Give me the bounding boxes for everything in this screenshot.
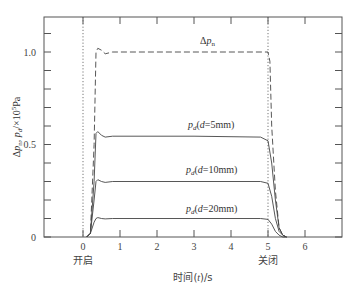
open-label: 开启: [73, 254, 93, 266]
y-tick-label: 1.0: [24, 47, 37, 58]
annotation-pd-5mm: pd(d=5mm): [187, 119, 234, 132]
close-label: 关闭: [258, 254, 278, 266]
y-axis-label: Δpn, pd/×105Pa: [10, 96, 24, 157]
annotation-pd-10mm: pd(d=10mm): [185, 164, 237, 177]
annotation-pd-20mm: pd(d=20mm): [185, 203, 237, 216]
event-markers: [83, 17, 268, 237]
x-tick-label: 0: [81, 241, 86, 252]
y-axis-tick-labels: 00.51.0: [24, 47, 37, 243]
x-tick-label: 2: [155, 241, 160, 252]
y-axis-ticks: [44, 34, 342, 238]
x-tick-label: 5: [266, 241, 271, 252]
x-tick-label: 1: [118, 241, 123, 252]
x-axis-label: 时间(t)/s: [173, 271, 212, 283]
annotation-delta-pn: Δpn: [200, 35, 215, 48]
x-tick-label: 6: [303, 241, 308, 252]
series-line: [87, 218, 287, 237]
x-axis-tick-labels: 0123456: [81, 241, 308, 252]
x-tick-label: 3: [192, 241, 197, 252]
x-tick-label: 4: [229, 241, 234, 252]
y-tick-label: 0.5: [24, 139, 37, 150]
y-tick-label: 0: [31, 232, 36, 243]
series-line: [87, 132, 287, 237]
chart-canvas: 00.51.0 0123456 Δpn pd(d=5mm) pd(d=10mm)…: [0, 0, 354, 291]
